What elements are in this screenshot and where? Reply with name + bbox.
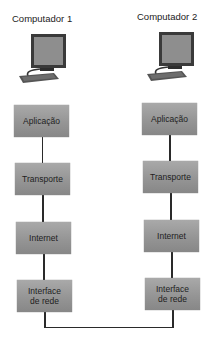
- network-link-line: [44, 327, 174, 329]
- connector-line: [169, 135, 171, 162]
- layer-internet-1: Internet: [16, 222, 71, 254]
- layer-label: de rede: [30, 296, 59, 306]
- layer-label: Aplicação: [151, 114, 188, 124]
- layer-application-1: Aplicação: [14, 105, 69, 137]
- computer-2-icon: [142, 30, 194, 82]
- layer-label: de rede: [158, 294, 187, 304]
- layer-network-interface-2: Interface de rede: [145, 278, 200, 310]
- layer-label: Internet: [157, 231, 186, 241]
- connector-line: [171, 252, 173, 278]
- layer-label: Transporte: [150, 172, 191, 182]
- connector-line: [42, 195, 44, 222]
- connector-line: [170, 193, 172, 220]
- layer-transport-1: Transporte: [15, 163, 70, 195]
- layer-label: Aplicação: [23, 116, 60, 126]
- connector-line: [42, 137, 44, 164]
- layer-application-2: Aplicação: [142, 103, 197, 135]
- layer-label: Interface: [28, 286, 61, 296]
- computer-1-label: Computador 1: [12, 13, 72, 24]
- layer-label: Internet: [29, 233, 58, 243]
- layer-network-interface-1: Interface de rede: [17, 280, 72, 312]
- layer-internet-2: Internet: [144, 220, 199, 252]
- layer-transport-2: Transporte: [143, 161, 198, 193]
- connector-line: [172, 310, 174, 328]
- computer-1-icon: [14, 32, 66, 84]
- layer-label: Interface: [156, 284, 189, 294]
- layer-label: Transporte: [22, 174, 63, 184]
- computer-2-label: Computador 2: [137, 11, 197, 22]
- connector-line: [43, 254, 45, 280]
